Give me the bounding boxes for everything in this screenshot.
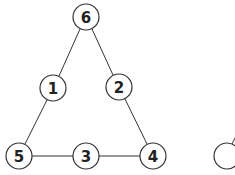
node-partial [214, 143, 235, 169]
edge-2-4 [125, 99, 147, 144]
node-label-1: 1 [48, 80, 58, 98]
edge-6-1 [59, 29, 80, 76]
node-5: 5 [6, 143, 32, 169]
edge-6-2 [92, 29, 113, 75]
node-1: 1 [40, 75, 66, 101]
node-2: 2 [106, 74, 132, 100]
node-3: 3 [73, 143, 99, 169]
node-4: 4 [140, 143, 166, 169]
node-label-6: 6 [81, 9, 91, 27]
node-label-5: 5 [14, 148, 24, 166]
node-label-2: 2 [114, 79, 124, 97]
edge-1-5 [25, 100, 47, 144]
node-label-4: 4 [148, 148, 158, 166]
node-label-3: 3 [81, 148, 91, 166]
edge-partial [232, 128, 235, 144]
graph-diagram: 6 1 2 5 3 4 [0, 0, 235, 175]
node-6: 6 [73, 4, 99, 30]
